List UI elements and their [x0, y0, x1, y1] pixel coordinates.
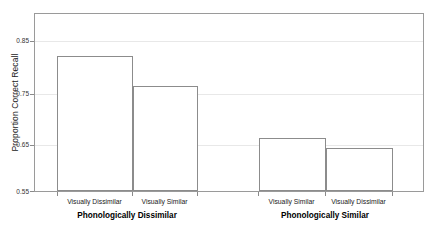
- y-tick-label-075: 0.75: [0, 89, 32, 99]
- bar-1: [133, 86, 198, 191]
- x-tick-2: [197, 192, 198, 196]
- y-tick-label-055: 0.55: [0, 187, 32, 197]
- bar-3: [326, 148, 393, 191]
- x-category-label-1: Visually Similar: [132, 196, 197, 207]
- y-tick-label-065: 0.65: [0, 140, 32, 150]
- group-label-phonologically-similar: Phonologically Similar: [248, 209, 402, 222]
- x-category-label-0: Visually Dissimilar: [57, 196, 132, 207]
- bar-0: [57, 56, 133, 191]
- bar-chart-figure: Proportion Correct Recall 0.85 0.75 0.65…: [0, 0, 437, 238]
- x-category-label-2: Visually Similar: [258, 196, 325, 207]
- x-category-label-3: Visually Dissimilar: [325, 196, 392, 207]
- y-tick-label-085: 0.85: [0, 36, 32, 46]
- gridline-085: [35, 41, 423, 42]
- group-label-phonologically-dissimilar: Phonologically Dissimilar: [47, 209, 207, 222]
- plot-area: [34, 13, 424, 192]
- bar-2: [259, 138, 326, 191]
- x-tick-5: [392, 192, 393, 196]
